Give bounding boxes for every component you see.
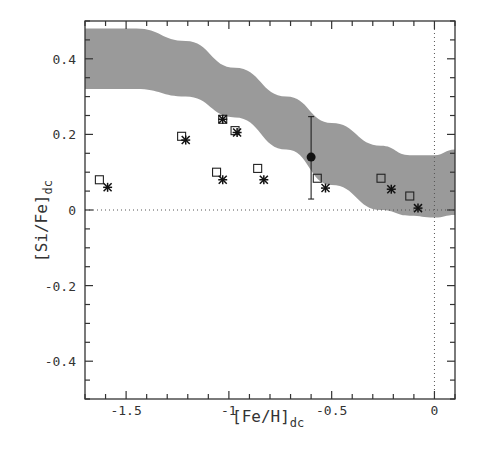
x-tick-label: 0 [431, 403, 439, 418]
y-tick-label: 0.2 [53, 127, 76, 142]
asterisk-marker [181, 136, 190, 145]
x-tick-label: -1.5 [110, 403, 141, 418]
asterisk-marker [414, 204, 423, 213]
y-axis-title: [Si/Fe]dc [32, 180, 55, 262]
filled-circle-marker [307, 153, 316, 162]
asterisk-marker [233, 128, 242, 137]
open-square-marker [254, 164, 262, 172]
open-square-marker [213, 168, 221, 176]
model-band [85, 29, 455, 218]
y-tick-label: 0 [68, 203, 76, 218]
asterisk-marker [218, 115, 227, 124]
asterisk-marker [387, 185, 396, 194]
asterisk-marker [259, 175, 268, 184]
model-band-area [85, 29, 455, 218]
y-tick-label: -0.2 [45, 279, 76, 294]
asterisk-marker [321, 184, 330, 193]
asterisk-marker [218, 175, 227, 184]
x-tick-label: -0.5 [316, 403, 347, 418]
y-tick-label: 0.4 [53, 52, 77, 67]
open-square-marker [95, 176, 103, 184]
chart: -1.5-1-0.500.40.20-0.2-0.4 [Fe/H]dc [Si/… [0, 0, 479, 453]
x-axis-title: [Fe/H]dc [232, 407, 304, 430]
y-tick-label: -0.4 [45, 354, 76, 369]
asterisk-marker [103, 183, 112, 192]
